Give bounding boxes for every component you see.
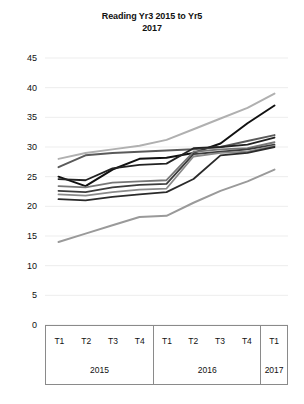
chart-title-line-2: 2017 <box>0 22 304 34</box>
y-tick-45: 45 <box>0 54 41 63</box>
reading-progress-line-chart: Reading Yr3 2015 to Yr5 2017 45403530252… <box>0 0 304 404</box>
x-term-cell-2016-T3: T3 <box>207 326 234 356</box>
x-axis-term-row: T1T2T3T4T1T2T3T4T1 <box>46 326 287 356</box>
y-tick-15: 15 <box>0 232 41 241</box>
x-term-cell-2016-T1: T1 <box>153 326 180 356</box>
series-canvas <box>45 58 288 325</box>
y-tick-35: 35 <box>0 113 41 122</box>
y-tick-40: 40 <box>0 83 41 92</box>
x-axis-year-row: 201520162017 <box>46 356 287 384</box>
x-term-cell-2015-T3: T3 <box>100 326 127 356</box>
x-axis-table: T1T2T3T4T1T2T3T4T1 201520162017 <box>45 325 288 385</box>
y-tick-0: 0 <box>0 321 41 330</box>
x-term-cell-2015-T1: T1 <box>46 326 73 356</box>
y-axis-tick-labels: 454035302520151050 <box>0 58 41 325</box>
y-tick-25: 25 <box>0 172 41 181</box>
series-line-4 <box>59 138 275 181</box>
x-term-cell-2015-T2: T2 <box>73 326 100 356</box>
series-lines <box>59 94 275 242</box>
x-term-cell-2015-T4: T4 <box>126 326 153 356</box>
chart-title-line-1: Reading Yr3 2015 to Yr5 <box>102 11 202 21</box>
y-tick-5: 5 <box>0 291 41 300</box>
y-tick-10: 10 <box>0 261 41 270</box>
x-term-cell-2016-T4: T4 <box>233 326 260 356</box>
x-term-cell-2017-T1: T1 <box>260 326 287 356</box>
y-tick-30: 30 <box>0 143 41 152</box>
chart-title: Reading Yr3 2015 to Yr5 2017 <box>0 10 304 34</box>
x-year-cell-2017: 2017 <box>260 356 287 384</box>
x-year-cell-2016: 2016 <box>153 356 260 384</box>
x-term-cell-2016-T2: T2 <box>180 326 207 356</box>
y-tick-20: 20 <box>0 202 41 211</box>
plot-area <box>45 58 288 325</box>
x-year-cell-2015: 2015 <box>46 356 153 384</box>
